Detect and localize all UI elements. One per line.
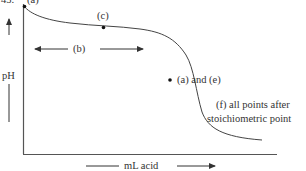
point-a-marker [23,5,27,9]
x-axis-label: mL acid [124,161,158,171]
point-c-marker [102,26,106,30]
point-ae-marker [168,78,172,82]
region-f-label-1: (f) all points after [216,100,290,111]
titration-curve-figure [0,0,306,171]
y-axis-label: pH [2,71,15,82]
point-a-label: (a) [27,0,39,6]
titration-diagram: 45. (a) (c) (b) (a) and (e) pH (f) all p… [0,0,306,171]
point-c-label: (c) [97,11,109,22]
region-b-label: (b) [73,44,85,55]
point-ae-label: (a) and (e) [177,75,221,86]
problem-number: 45. [1,0,14,6]
region-f-label-2: stoichiometric point [207,114,291,125]
